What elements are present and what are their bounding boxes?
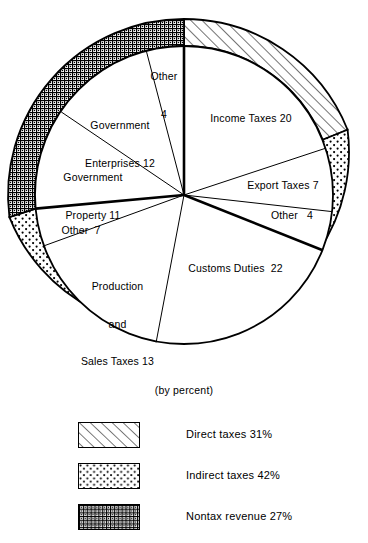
legend-swatch-indirect-taxes bbox=[78, 463, 140, 489]
slice-label-income-taxes: Income Taxes 20 bbox=[186, 112, 316, 125]
slice-label-line: Production bbox=[55, 280, 180, 293]
legend-label-direct-taxes: Direct taxes 31% bbox=[186, 428, 272, 440]
slice-label-line: Property 11 bbox=[32, 209, 154, 222]
slice-label-nontax-other: Other 4 bbox=[136, 45, 192, 145]
slice-label-line: Enterprises 12 bbox=[56, 157, 184, 170]
legend-item-indirect-taxes: Indirect taxes 42% bbox=[0, 461, 368, 499]
legend-swatch-direct-taxes bbox=[78, 422, 140, 448]
legend-swatch-nontax-revenue bbox=[78, 504, 140, 530]
chart-caption: (by percent) bbox=[0, 384, 368, 396]
chart-legend: Direct taxes 31% Indirect taxes 42% Nont… bbox=[0, 420, 368, 543]
slice-label-line: Sales Taxes 13 bbox=[55, 355, 180, 368]
legend-item-direct-taxes: Direct taxes 31% bbox=[0, 420, 368, 458]
slice-label-line: Other bbox=[136, 70, 192, 83]
legend-label-nontax-revenue: Nontax revenue 27% bbox=[186, 510, 292, 522]
slice-label-production-sales-taxes: Production and Sales Taxes 13 bbox=[55, 255, 180, 393]
pie-chart-figure: Income Taxes 20 Export Taxes 7 Other 4 C… bbox=[0, 0, 368, 543]
slice-label-direct-other: Other 4 bbox=[242, 209, 342, 222]
slice-label-line: and bbox=[55, 318, 180, 331]
slice-label-line: 4 bbox=[136, 108, 192, 121]
slice-label-export-taxes: Export Taxes 7 bbox=[224, 179, 342, 192]
legend-item-nontax-revenue: Nontax revenue 27% bbox=[0, 502, 368, 540]
legend-label-indirect-taxes: Indirect taxes 42% bbox=[186, 469, 280, 481]
slice-label-customs-duties: Customs Duties 22 bbox=[168, 262, 303, 275]
